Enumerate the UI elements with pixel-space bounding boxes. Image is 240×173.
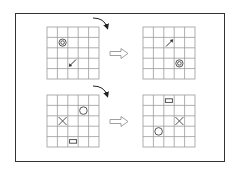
- example-2-input-grid: [47, 95, 99, 147]
- diagram-canvas: [0, 0, 240, 173]
- hollow-right-arrow-icon: [110, 117, 128, 127]
- example-2-output-grid: [143, 95, 195, 147]
- example-1-input-grid: [47, 27, 99, 79]
- example-1-output-grid: [143, 27, 195, 79]
- curved-arrow-clockwise-icon: [93, 18, 107, 27]
- curved-arrow-clockwise-icon: [93, 86, 107, 95]
- hollow-right-arrow-icon: [110, 49, 128, 59]
